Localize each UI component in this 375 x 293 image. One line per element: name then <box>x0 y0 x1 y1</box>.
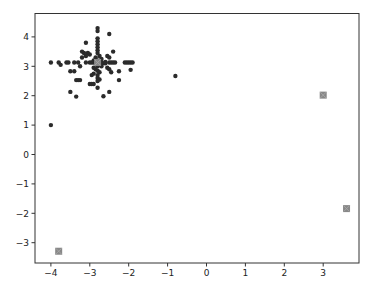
data-point <box>117 78 121 82</box>
data-point <box>84 41 88 45</box>
x-tick-label: −3 <box>83 268 96 278</box>
x-tick-label: 1 <box>243 268 249 278</box>
data-point <box>95 29 99 33</box>
y-tick-label: 1 <box>23 120 29 130</box>
data-point <box>128 68 132 72</box>
data-point <box>95 86 99 90</box>
y-tick-label: 3 <box>23 62 29 72</box>
data-point <box>113 60 117 64</box>
y-tick-label: 4 <box>23 32 29 42</box>
data-point <box>103 61 107 65</box>
x-axis-ticks: −4−3−2−10123 <box>44 263 326 278</box>
data-point <box>49 60 53 64</box>
y-tick-label: 0 <box>23 150 29 160</box>
centroid-marker <box>320 92 327 99</box>
data-point <box>107 55 111 59</box>
data-point <box>68 69 72 73</box>
data-point <box>78 64 82 68</box>
x-tick-label: −2 <box>122 268 135 278</box>
data-point <box>117 69 121 73</box>
y-tick-label: −3 <box>16 238 29 248</box>
centroid-marker <box>94 59 101 66</box>
data-point <box>88 52 92 56</box>
x-tick-label: 3 <box>320 268 326 278</box>
data-point <box>68 90 72 94</box>
data-point <box>84 54 88 58</box>
y-tick-label: 2 <box>23 91 29 101</box>
x-tick-label: −1 <box>161 268 174 278</box>
data-point <box>74 94 78 98</box>
centroid-marker <box>343 205 350 212</box>
data-point <box>109 70 113 74</box>
data-point <box>72 69 76 73</box>
y-axis-ticks: −3−2−101234 <box>16 32 35 248</box>
x-tick-label: 0 <box>204 268 210 278</box>
data-point <box>95 79 99 83</box>
data-point <box>76 60 80 64</box>
data-point <box>49 123 53 127</box>
data-point <box>66 60 70 64</box>
data-point <box>91 82 95 86</box>
y-tick-label: −2 <box>16 209 29 219</box>
data-point <box>72 60 76 64</box>
data-point <box>107 90 111 94</box>
data-points <box>49 26 178 127</box>
x-tick-label: 2 <box>281 268 287 278</box>
data-point <box>173 74 177 78</box>
data-point <box>84 60 88 64</box>
data-point <box>78 78 82 82</box>
data-point <box>90 73 94 77</box>
data-point <box>111 49 115 53</box>
centroid-marker <box>55 248 62 255</box>
y-tick-label: −1 <box>16 179 29 189</box>
data-point <box>58 63 62 67</box>
scatter-chart: −4−3−2−10123 −3−2−101234 <box>0 0 375 293</box>
x-tick-label: −4 <box>44 268 58 278</box>
data-point <box>80 55 84 59</box>
data-point <box>101 94 105 98</box>
data-point <box>130 60 134 64</box>
data-point <box>107 32 111 36</box>
